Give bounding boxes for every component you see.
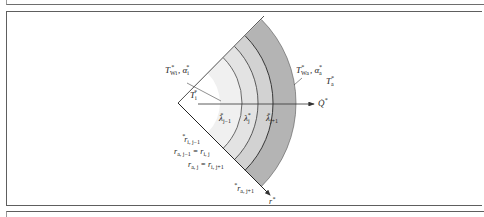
inner-wall-label: TWi*, αi* [165,64,189,76]
r-outer-j-equals-label: ra, j = ri, j+1 [188,160,224,170]
r-outer-j-plus-1-label: ra, j+1* [234,182,254,194]
outer-wall-label: TWa*, αa* [296,64,322,76]
heat-flow-label: Q̇* [318,97,328,108]
lambda-j-label: λj* [243,112,251,124]
inner-temp-label: Ti* [190,89,197,101]
outer-wall-leader [294,78,302,85]
r-inner-j-minus-1-label: ri, j−1* [182,133,200,145]
r-outer-j-minus-1-equals-label: ra, j−1 = ri, j [174,147,210,157]
radius-axis-label: r* [269,196,275,206]
wall-layers-diagram: TWi*, αi* TWa*, αa* Ta* Ti* Q̇* λj−1* λj… [0,0,484,217]
outer-temp-label: Ta* [326,75,334,87]
